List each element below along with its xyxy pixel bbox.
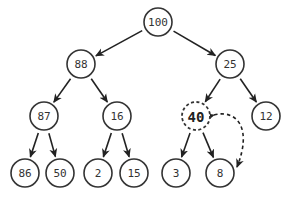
node-label: 88 (74, 58, 87, 71)
edge-100-to-25 (174, 31, 216, 55)
edge-40-to-8 (203, 133, 213, 158)
tree-node-88: 88 (67, 50, 95, 78)
edge-88-to-87 (54, 79, 71, 102)
heap-tree-diagram: 100882587164012865021538 (0, 0, 289, 198)
tree-node-16: 16 (103, 102, 131, 130)
tree-node-87: 87 (30, 102, 58, 130)
tree-node-2: 2 (84, 159, 112, 187)
node-label: 2 (95, 167, 102, 180)
tree-node-15: 15 (120, 159, 148, 187)
tree-node-3: 3 (162, 159, 190, 187)
node-label: 8 (217, 167, 224, 180)
edge-40-to-3 (182, 133, 190, 157)
edge-87-to-86 (30, 133, 38, 157)
tree-node-40: 40 (182, 102, 210, 130)
edge-100-to-88 (96, 31, 142, 56)
tree-node-50: 50 (46, 159, 74, 187)
edge-25-to-40 (205, 79, 220, 102)
node-label: 50 (53, 167, 66, 180)
node-label: 87 (37, 110, 50, 123)
tree-node-100: 100 (144, 8, 172, 36)
tree-node-86: 86 (11, 159, 39, 187)
edge-25-to-12 (240, 79, 256, 102)
edge-16-to-15 (122, 133, 129, 156)
node-label: 12 (259, 110, 272, 123)
tree-node-12: 12 (252, 102, 280, 130)
node-label: 25 (223, 58, 236, 71)
node-label: 16 (110, 110, 123, 123)
tree-node-25: 25 (216, 50, 244, 78)
edge-16-to-2 (103, 133, 111, 157)
edge-88-to-16 (91, 79, 107, 102)
edge-87-to-50 (49, 133, 56, 156)
node-label: 40 (188, 109, 205, 125)
node-label: 100 (148, 16, 168, 29)
tree-node-8: 8 (206, 159, 234, 187)
node-label: 15 (127, 167, 140, 180)
edges-layer (30, 31, 256, 158)
node-label: 86 (18, 167, 31, 180)
node-label: 3 (173, 167, 180, 180)
